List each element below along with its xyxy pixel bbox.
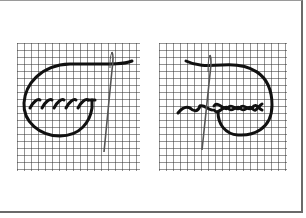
right-panel (159, 43, 287, 171)
left-panel (17, 43, 140, 171)
stitch-diagram (0, 0, 306, 218)
